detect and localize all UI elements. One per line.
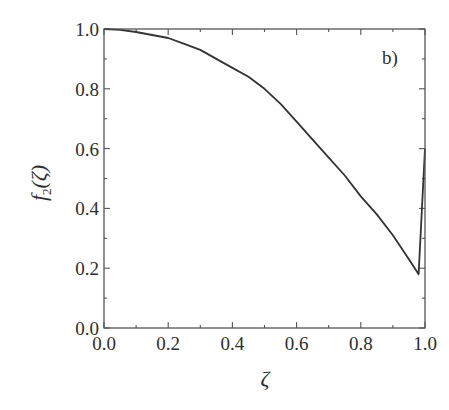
- plot-frame: [104, 29, 425, 328]
- y-axis-title-arg: (ζ): [26, 165, 51, 189]
- x-tick-label: 0.4: [221, 333, 245, 354]
- x-tick-label: 1.0: [413, 333, 437, 354]
- x-axis-title: ζ: [261, 366, 272, 391]
- panel-label: b): [382, 47, 398, 69]
- x-tick-label: 0.8: [349, 333, 373, 354]
- y-axis-title: f2(ζ): [26, 165, 54, 201]
- x-tick-label: 0.2: [156, 333, 180, 354]
- svg-text:f2(ζ): f2(ζ): [26, 165, 54, 201]
- axis-ticks: [104, 29, 425, 328]
- y-tick-label: 0.0: [75, 318, 99, 339]
- y-tick-label: 0.4: [75, 198, 99, 219]
- chart: 0.00.20.40.60.81.00.00.20.40.60.81.0 b) …: [0, 0, 449, 410]
- y-tick-label: 0.6: [75, 139, 99, 160]
- y-tick-label: 0.2: [75, 258, 99, 279]
- x-tick-label: 0.6: [285, 333, 309, 354]
- chart-svg: 0.00.20.40.60.81.00.00.20.40.60.81.0 b) …: [0, 0, 449, 410]
- data-line: [104, 29, 425, 274]
- y-tick-label: 1.0: [75, 19, 99, 40]
- y-tick-label: 0.8: [75, 79, 99, 100]
- tick-labels: 0.00.20.40.60.81.00.00.20.40.60.81.0: [75, 19, 437, 354]
